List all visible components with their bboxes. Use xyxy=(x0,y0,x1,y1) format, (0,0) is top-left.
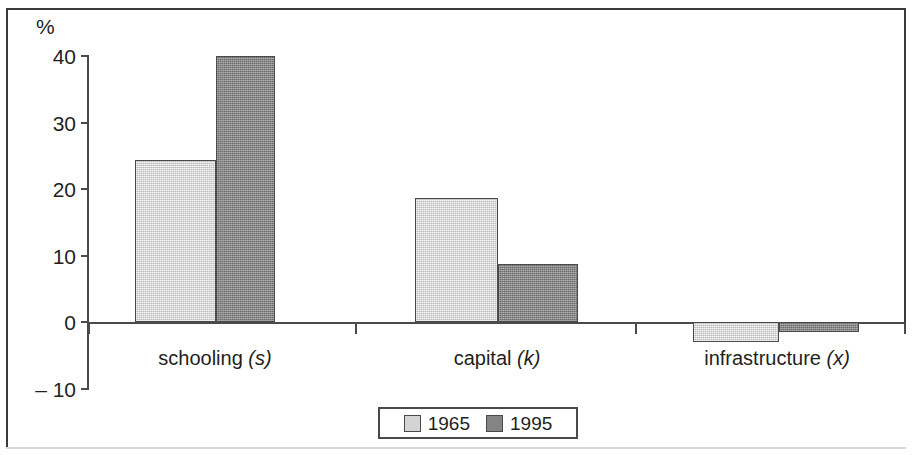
x-tick-mark xyxy=(635,324,637,334)
bar-1995-schooling xyxy=(216,56,275,322)
y-tick-label: 20 xyxy=(16,179,76,200)
legend-label: 1995 xyxy=(510,414,552,433)
x-tick-mark xyxy=(904,324,906,334)
y-tick-label: 10 xyxy=(16,246,76,267)
bar-1995-infrastructure xyxy=(779,322,859,332)
category-label-capital: capital (k) xyxy=(347,347,647,369)
legend-item-1965[interactable]: 1965 xyxy=(404,414,470,433)
y-tick-label: 0 xyxy=(16,312,76,333)
bar-1965-capital xyxy=(415,198,498,322)
dark-swatch xyxy=(486,415,503,432)
bar-1965-infrastructure xyxy=(693,322,779,342)
legend-label: 1965 xyxy=(428,414,470,433)
y-tick-mark xyxy=(81,55,89,57)
y-tick-mark xyxy=(81,255,89,257)
bar-1965-schooling xyxy=(135,160,216,322)
bar-1995-capital xyxy=(498,264,578,322)
bar-chart-plot-area: % 403020100– 10 schooling (s)capital (k)… xyxy=(0,0,922,455)
y-tick-label: 40 xyxy=(16,46,76,67)
y-tick-mark xyxy=(81,321,89,323)
light-swatch xyxy=(404,415,421,432)
y-axis-line xyxy=(87,56,89,390)
legend-item-1995[interactable]: 1995 xyxy=(486,414,552,433)
y-tick-mark xyxy=(81,388,89,390)
y-tick-label: 30 xyxy=(16,113,76,134)
category-label-infrastructure: infrastructure (x) xyxy=(627,347,922,369)
x-tick-mark xyxy=(88,324,90,334)
category-label-schooling: schooling (s) xyxy=(65,347,365,369)
y-tick-mark xyxy=(81,188,89,190)
x-tick-mark xyxy=(355,324,357,334)
y-axis-tick-labels: 403020100– 10 xyxy=(10,0,76,455)
y-tick-label: – 10 xyxy=(16,379,76,400)
chart-legend: 19651995 xyxy=(378,407,578,439)
y-tick-mark xyxy=(81,122,89,124)
